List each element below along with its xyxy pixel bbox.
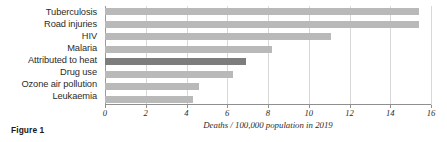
x-axis-ticks: 0246810121416	[105, 105, 431, 121]
x-tick-label: 16	[427, 108, 436, 118]
bar-highlighted	[105, 58, 246, 65]
bar	[105, 33, 331, 40]
x-tick-label: 8	[266, 108, 270, 118]
bar-row	[105, 8, 431, 15]
bar-row	[105, 83, 431, 90]
x-tick-label: 0	[103, 108, 107, 118]
x-tick-label: 2	[144, 108, 148, 118]
category-label: Road injuries	[0, 20, 101, 30]
figure-caption: Figure 1	[11, 125, 44, 135]
bar-row	[105, 58, 431, 65]
category-label: Attributed to heat	[0, 56, 101, 66]
x-tick-label: 4	[184, 108, 188, 118]
category-label: Malaria	[0, 44, 101, 54]
category-label: Ozone air pollution	[0, 80, 101, 90]
category-axis-labels: TuberculosisRoad injuriesHIVMalariaAttri…	[0, 8, 101, 102]
bar-row	[105, 46, 431, 53]
bar	[105, 8, 419, 15]
figure-bar-chart: TuberculosisRoad injuriesHIVMalariaAttri…	[0, 0, 447, 142]
x-tick-label: 14	[386, 108, 395, 118]
bar-row	[105, 21, 431, 28]
category-label: HIV	[0, 32, 101, 42]
gridline	[431, 6, 432, 105]
x-tick-label: 12	[345, 108, 354, 118]
bar-series	[105, 8, 431, 103]
bar-row	[105, 71, 431, 78]
bar-row	[105, 96, 431, 103]
bar	[105, 96, 193, 103]
bar	[105, 83, 199, 90]
bar-row	[105, 33, 431, 40]
x-tick-label: 10	[304, 108, 313, 118]
category-label: Drug use	[0, 68, 101, 78]
bar	[105, 21, 419, 28]
x-tick-label: 6	[225, 108, 229, 118]
bar	[105, 71, 233, 78]
category-label: Tuberculosis	[0, 8, 101, 18]
x-axis-title: Deaths / 100,000 population in 2019	[105, 120, 431, 130]
plot-area	[105, 6, 431, 105]
category-label: Leukaemia	[0, 92, 101, 102]
bar	[105, 46, 272, 53]
